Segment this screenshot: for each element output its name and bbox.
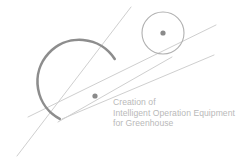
tagline-line-3: for Greenhouse [113,118,241,129]
tagline-line-1: Creation of [113,97,241,108]
logo-canvas: Creation of Intelligent Operation Equipm… [0,0,246,162]
logo-graphic [0,0,246,162]
tagline-line-2: Intelligent Operation Equipment [113,108,241,119]
tagline: Creation of Intelligent Operation Equipm… [113,97,241,129]
steep-crossing-line [17,7,131,156]
large-arc-center-dot [92,93,97,98]
construction-lines [17,7,216,156]
small-circle-center-dot [160,30,165,35]
